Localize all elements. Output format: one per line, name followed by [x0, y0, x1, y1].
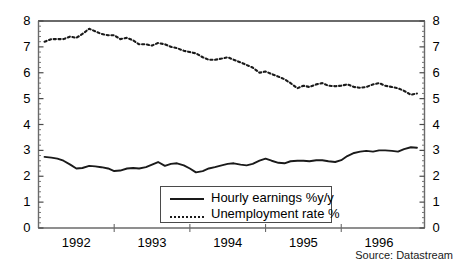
y-axis-tick-label-left: 4 [9, 118, 31, 131]
y-axis-tick-label-right: 4 [433, 118, 455, 131]
y-axis-tick-label-right: 3 [433, 143, 455, 156]
y-axis-tick-label-right: 0 [433, 221, 455, 234]
y-axis-tick-label-right: 6 [433, 66, 455, 79]
legend-entry-unemployment-rate: Unemployment rate % [161, 205, 331, 222]
legend-label-hourly-earnings: Hourly earnings %y/y [211, 190, 334, 205]
x-axis-tick-label: 1992 [51, 236, 101, 249]
y-axis-tick-label-left: 5 [9, 92, 31, 105]
x-axis-tick-label: 1996 [354, 236, 404, 249]
y-axis-ticks-left [39, 21, 44, 228]
y-axis-tick-label-left: 1 [9, 195, 31, 208]
y-axis-tick-label-left: 7 [9, 40, 31, 53]
series-line-unemployment-rate [45, 29, 417, 95]
y-axis-tick-label-left: 0 [9, 221, 31, 234]
x-axis-tick-label: 1994 [203, 236, 253, 249]
legend-line-dotted-icon [170, 208, 204, 220]
y-axis-tick-label-right: 2 [433, 169, 455, 182]
source-note: Source: Datastream [355, 249, 453, 261]
chart-legend: Hourly earnings %y/y Unemployment rate % [160, 186, 332, 223]
y-axis-tick-label-right: 7 [433, 40, 455, 53]
series-line-hourly-earnings [45, 147, 417, 172]
x-axis-tick-label: 1995 [278, 236, 328, 249]
y-axis-ticks-right [420, 21, 425, 228]
legend-label-unemployment-rate: Unemployment rate % [211, 206, 340, 221]
chart-plot-svg [0, 0, 463, 273]
y-axis-tick-label-right: 5 [433, 92, 455, 105]
y-axis-tick-label-left: 2 [9, 169, 31, 182]
y-axis-tick-label-right: 8 [433, 14, 455, 27]
chart-container: 012345678 012345678 19921993199419951996… [0, 0, 463, 273]
legend-line-solid-icon [170, 192, 204, 204]
x-axis-tick-label: 1993 [127, 236, 177, 249]
y-axis-tick-label-left: 3 [9, 143, 31, 156]
y-axis-tick-label-left: 8 [9, 14, 31, 27]
y-axis-tick-label-left: 6 [9, 66, 31, 79]
legend-entry-hourly-earnings: Hourly earnings %y/y [161, 189, 331, 206]
y-axis-tick-label-right: 1 [433, 195, 455, 208]
